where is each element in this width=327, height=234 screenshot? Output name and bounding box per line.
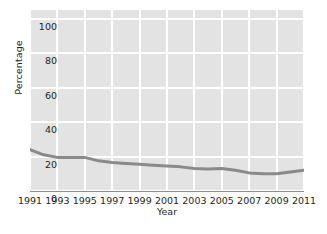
y-tick-label: 80 [31,55,57,66]
plot-area [30,10,304,191]
y-tick-label: 60 [31,90,57,101]
x-tick-label: 2011 [287,195,321,206]
y-tick-label: 100 [31,21,57,32]
y-tick-label: 40 [31,124,57,135]
y-tick-label: 20 [31,159,57,170]
x-axis-title: Year [30,206,304,217]
data-series-line [30,10,304,191]
y-axis-title: Percentage [13,18,24,118]
x-axis-line [30,191,304,192]
line-chart-figure: Percentage 020406080100 1991199319951997… [0,0,327,234]
